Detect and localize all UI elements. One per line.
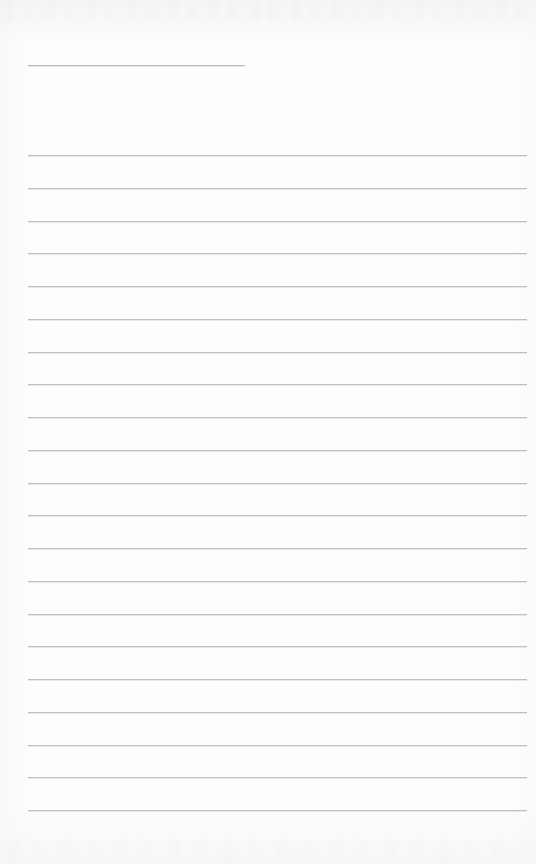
ruled-line	[28, 221, 527, 222]
ruled-line	[28, 384, 527, 385]
ruled-line	[28, 319, 527, 320]
ruled-line	[28, 483, 527, 484]
ruled-line	[28, 745, 527, 746]
ruled-line	[28, 253, 527, 254]
scanned-page	[0, 0, 536, 864]
ruled-line	[28, 515, 527, 516]
ruled-line	[28, 712, 527, 713]
ruled-line	[28, 646, 527, 647]
ruled-line	[28, 450, 527, 451]
ruled-line	[28, 777, 527, 778]
scan-noise-bottom-band	[0, 840, 536, 864]
paper-surface	[0, 0, 536, 864]
ruled-line	[28, 679, 527, 680]
scan-noise-top-band	[0, 0, 536, 22]
ruled-line	[28, 417, 527, 418]
ruled-line	[28, 581, 527, 582]
ruled-line	[28, 548, 527, 549]
ruled-line	[28, 810, 527, 811]
header-rule-line	[28, 65, 245, 66]
ruled-line	[28, 614, 527, 615]
ruled-line	[28, 188, 527, 189]
ruled-line	[28, 286, 527, 287]
ruled-line	[28, 352, 527, 353]
ruled-line	[28, 155, 527, 156]
